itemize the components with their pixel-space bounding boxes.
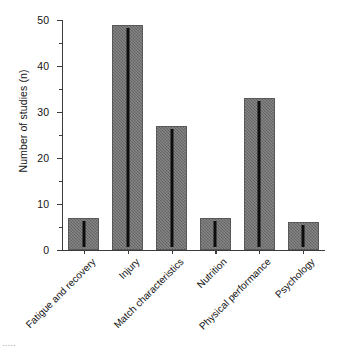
caption-fragment: ..... xyxy=(2,341,16,348)
y-tick-label: 30 xyxy=(37,106,49,118)
bar xyxy=(156,126,187,250)
y-tick-label: 50 xyxy=(37,14,49,26)
bar-series xyxy=(62,20,325,250)
plot-area: 01020304050 xyxy=(62,20,325,250)
bar-center-line xyxy=(126,28,129,247)
y-tick-label: 20 xyxy=(37,152,49,164)
bar xyxy=(68,218,99,250)
x-axis-labels: Fatigue and recoveryInjuryMatch characte… xyxy=(62,252,325,332)
bar-chart-figure: Number of studies (n) 01020304050 Fatigu… xyxy=(0,0,342,353)
x-axis-label: Fatigue and recovery xyxy=(0,256,98,353)
bar-center-line xyxy=(82,221,85,247)
y-tick-label: 40 xyxy=(37,60,49,72)
y-tick-major: 0 xyxy=(57,250,62,251)
bar-center-line xyxy=(170,129,173,247)
bar-center-line xyxy=(258,101,261,247)
y-tick-label: 0 xyxy=(43,244,49,256)
bar xyxy=(112,25,143,250)
bar xyxy=(244,98,275,250)
bar xyxy=(200,218,231,250)
caption-strip: ..... xyxy=(0,341,342,353)
y-axis-title: Number of studies (n) xyxy=(17,51,29,191)
bar-center-line xyxy=(302,225,305,247)
bar-center-line xyxy=(214,221,217,247)
y-tick-label: 10 xyxy=(37,198,49,210)
bar xyxy=(288,222,319,250)
